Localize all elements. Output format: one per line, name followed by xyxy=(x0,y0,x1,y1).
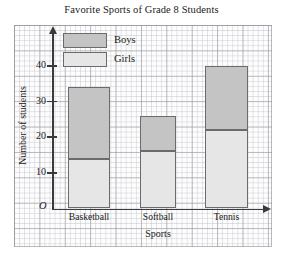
y-tick-label-40: 40 xyxy=(24,59,46,70)
bar-segment-boys[interactable] xyxy=(140,116,176,152)
chart-page: Favorite Sports of Grade 8 Students O Nu… xyxy=(0,0,283,255)
bar-segment-boys[interactable] xyxy=(68,87,110,158)
legend-swatch-boys xyxy=(63,33,107,48)
bar-segment-girls[interactable] xyxy=(68,159,110,209)
y-axis-line xyxy=(52,33,54,210)
legend-label-boys: Boys xyxy=(114,34,136,45)
category-label-tennis: Tennis xyxy=(191,211,262,222)
y-tick-mark-10 xyxy=(47,172,57,174)
y-tick-label-10: 10 xyxy=(24,166,46,177)
x-axis-arrow-icon xyxy=(263,205,271,213)
plot-area: O Number of students 10203040 Basketball… xyxy=(0,0,283,255)
bar-segment-boys[interactable] xyxy=(205,66,248,130)
y-tick-mark-30 xyxy=(47,101,57,103)
bar-segment-girls[interactable] xyxy=(140,151,176,208)
y-tick-label-20: 20 xyxy=(24,130,46,141)
category-label-softball: Softball xyxy=(126,211,190,222)
legend-label-girls: Girls xyxy=(114,53,135,64)
y-tick-mark-20 xyxy=(47,136,57,138)
legend-swatch-girls xyxy=(63,52,107,67)
y-tick-mark-40 xyxy=(47,65,57,67)
x-axis-title: Sports xyxy=(98,228,218,239)
category-label-basketball: Basketball xyxy=(54,211,124,222)
origin-label: O xyxy=(39,200,47,211)
bar-segment-girls[interactable] xyxy=(205,130,248,208)
y-axis-arrow-icon xyxy=(49,26,57,34)
y-tick-label-30: 30 xyxy=(24,95,46,106)
